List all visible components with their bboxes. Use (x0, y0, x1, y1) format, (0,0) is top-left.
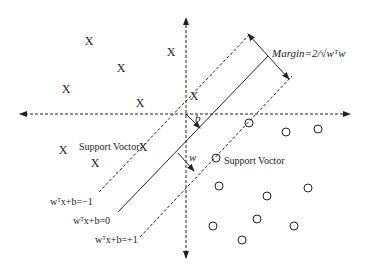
o-point (245, 119, 253, 127)
x-point: X (136, 96, 145, 110)
x-point: X (59, 143, 68, 157)
x-point: X (117, 61, 126, 75)
o-point (209, 222, 217, 230)
hyperplane-zero (118, 56, 268, 212)
x-point: X (167, 45, 176, 59)
x-point: X (85, 34, 94, 48)
o-point (290, 222, 298, 230)
x-point: X (139, 140, 148, 154)
o-point (282, 128, 290, 136)
o-point (263, 192, 271, 200)
o-point (212, 154, 220, 162)
o-point (253, 215, 261, 223)
o-point (304, 184, 312, 192)
support-vector-left-label: Support Voctor (79, 141, 140, 152)
plane-neg-label: wᵀx+b=−1 (50, 196, 93, 207)
w-label: w (189, 151, 197, 163)
x-point: X (91, 156, 100, 170)
o-point (215, 182, 223, 190)
svm-diagram: XXXXXXXXX Margin=2/√wᵀw b w Support Voct… (0, 0, 365, 280)
o-point (314, 125, 322, 133)
plane-pos-label: wᵀx+b=+1 (95, 234, 138, 245)
support-vector-right-label: Support Voctor (224, 155, 285, 166)
x-point: X (190, 89, 199, 103)
x-point: X (62, 82, 71, 96)
margin-label: Margin=2/√wᵀw (271, 47, 346, 59)
b-label: b (195, 112, 201, 124)
o-point (238, 236, 246, 244)
class-o-points (209, 119, 322, 244)
plane-zero-label: wᵀx+b=0 (73, 215, 110, 226)
